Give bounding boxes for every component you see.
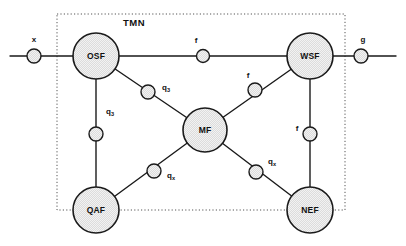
node-mf[interactable]: MF	[183, 108, 227, 152]
node-osf-label: OSF	[87, 51, 105, 61]
diagram-title: TMN	[123, 17, 145, 28]
reference-point-f-diag	[248, 83, 262, 97]
reference-point-label-f-diag: f	[247, 71, 250, 80]
node-nef[interactable]: NEF	[287, 187, 333, 233]
reference-point-x	[27, 49, 41, 63]
reference-point-label-f-right: f	[296, 124, 299, 133]
node-osf[interactable]: OSF	[73, 33, 119, 79]
reference-point-label-q3-diag: q3	[162, 83, 170, 93]
reference-point-f-right	[303, 127, 317, 141]
external-label-g: g	[361, 35, 366, 44]
node-qaf[interactable]: QAF	[73, 187, 119, 233]
node-qaf-label: QAF	[87, 205, 106, 215]
node-wsf[interactable]: WSF	[287, 33, 333, 79]
external-label-x: x	[32, 35, 37, 44]
reference-point-label-q3-left: q3	[106, 107, 114, 117]
tmn-architecture-diagram: OSF WSF MF QAF NEF x f g q3	[0, 0, 406, 246]
reference-point-qx-right	[249, 165, 263, 179]
reference-point-label-qx-right: qx	[268, 157, 277, 167]
node-nef-label: NEF	[301, 205, 319, 215]
reference-point-label-f-top: f	[195, 36, 198, 45]
reference-point-g	[354, 49, 368, 63]
reference-point-q3-left	[89, 127, 103, 141]
reference-point-qx-left	[147, 164, 161, 178]
reference-point-q3-diag	[141, 85, 155, 99]
node-mf-label: MF	[199, 125, 212, 135]
node-wsf-label: WSF	[300, 51, 319, 61]
reference-point-f-top	[197, 50, 210, 63]
reference-point-label-qx-left: qx	[167, 171, 176, 181]
diagram-canvas: OSF WSF MF QAF NEF x f g q3	[0, 0, 406, 246]
